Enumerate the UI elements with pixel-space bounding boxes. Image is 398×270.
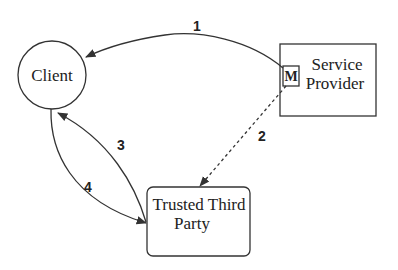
edge-4-arrow [51,109,146,223]
edge-3: 3 [58,113,146,222]
edge-2-arrow [200,86,286,186]
edge-1-label: 1 [193,18,201,34]
service-provider-node: M Service Provider [280,44,376,116]
ttp-label-line2: Party [174,214,210,233]
edge-2-label: 2 [258,128,266,144]
m-label: M [284,69,297,84]
client-node: Client [18,41,86,109]
ttp-label-line1: Trusted Third [152,195,246,214]
service-provider-label-line2: Provider [306,74,365,93]
edge-4-label: 4 [84,179,92,195]
service-provider-label-line1: Service [312,55,363,74]
edge-3-label: 3 [117,137,125,153]
edge-4: 4 [51,109,146,223]
edge-1-arrow [86,34,283,68]
edge-2: 2 [200,86,286,186]
edge-3-arrow [58,113,146,222]
trusted-third-party-node: Trusted Third Party [147,187,250,256]
edge-1: 1 [86,18,283,68]
client-label: Client [31,66,73,85]
diagram-canvas: Client M Service Provider Trusted Third … [0,0,398,270]
